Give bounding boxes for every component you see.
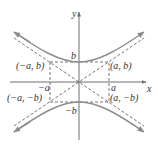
hyperbola-diagram: y x b −b a −a (−a, b) (a, b) (−a, −b) (a… [0, 0, 158, 148]
x-axis-label: x [146, 83, 152, 94]
label-neg-b: −b [65, 105, 77, 116]
hyperbola-upper-branch-left-arrow [14, 32, 30, 42]
point-label-neg-a-neg-b: (−a, −b) [7, 92, 43, 104]
point-label-neg-a-b: (−a, b) [16, 60, 45, 72]
hyperbola-lower-branch-left-arrow [14, 122, 30, 132]
y-axis-label: y [71, 8, 77, 19]
point-label-a-neg-b: (a, −b) [110, 92, 139, 104]
point-label-a-b: (a, b) [110, 60, 132, 72]
label-b: b [71, 50, 76, 61]
